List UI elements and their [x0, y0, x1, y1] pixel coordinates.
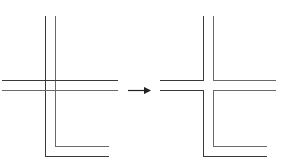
- after-inner-l-line: [214, 91, 277, 147]
- before-inner-l-line: [56, 16, 110, 147]
- after-panel: [160, 16, 276, 157]
- junction-diagram: [0, 0, 284, 163]
- after-top-left-vertical-line: [160, 16, 204, 81]
- before-panel: [2, 16, 118, 157]
- after-top-right-vertical-line: [214, 16, 277, 81]
